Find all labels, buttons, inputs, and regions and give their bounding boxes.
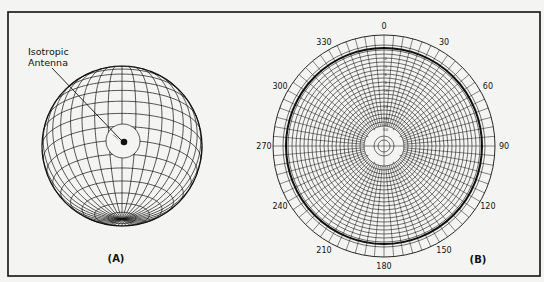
svg-text:-6: -6 <box>383 72 387 77</box>
angle-label-90: 90 <box>499 142 509 151</box>
svg-text:-20: -20 <box>382 104 389 109</box>
callout-line-2: Antenna <box>28 57 69 68</box>
svg-text:-50: -50 <box>382 127 389 132</box>
isotropic-antenna-callout: Isotropic Antenna <box>28 46 69 68</box>
svg-text:-30: -30 <box>382 116 389 121</box>
angle-label-0: 0 <box>381 22 386 31</box>
angle-label-120: 120 <box>480 202 495 211</box>
svg-text:-2: -2 <box>383 56 387 61</box>
callout-line-1: Isotropic <box>28 46 69 57</box>
angle-label-150: 150 <box>436 245 451 254</box>
svg-text:-4: -4 <box>383 64 387 69</box>
angle-label-210: 210 <box>316 245 331 254</box>
angle-label-300: 300 <box>272 82 287 91</box>
angle-label-60: 60 <box>483 82 493 91</box>
panel-a-label: (A) <box>108 253 125 264</box>
isotropic-sphere <box>42 66 202 226</box>
figure-canvas: -2-4-6-8-10-20-30-40-50 <box>0 0 544 282</box>
svg-text:-8: -8 <box>383 80 387 85</box>
svg-text:-10: -10 <box>382 88 389 93</box>
angle-label-330: 330 <box>316 38 331 47</box>
panel-b-label: (B) <box>470 254 487 265</box>
polar-plot: -2-4-6-8-10-20-30-40-50 <box>273 35 495 257</box>
angle-label-30: 30 <box>439 38 449 47</box>
angle-label-240: 240 <box>272 202 287 211</box>
angle-label-180: 180 <box>376 262 391 271</box>
antenna-point-icon <box>121 139 128 146</box>
angle-label-270: 270 <box>256 142 271 151</box>
